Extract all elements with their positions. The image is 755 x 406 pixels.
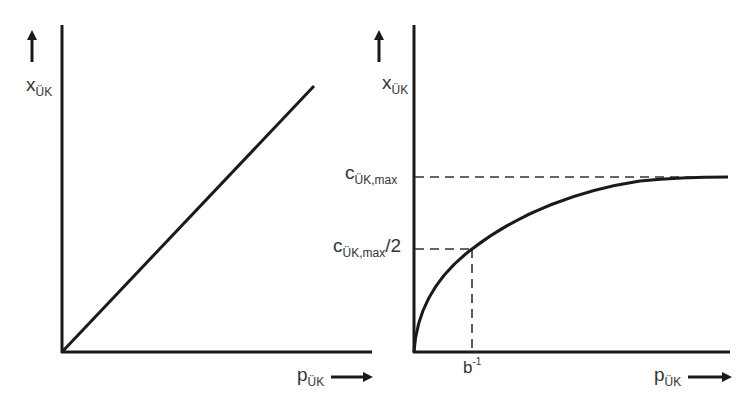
left-x-axis-label: pÜK xyxy=(297,364,324,386)
chalf-label: cÜK,max/2 xyxy=(333,235,401,257)
b-inverse-label: b-1 xyxy=(463,358,481,378)
right-y-axis-label: xÜK xyxy=(382,72,408,94)
right-y-label-main: x xyxy=(382,72,392,93)
cmax-label-main: c xyxy=(345,162,355,183)
left-y-label-sub: ÜK xyxy=(36,85,53,99)
left-linear-line xyxy=(62,86,314,352)
right-x-label-sub: ÜK xyxy=(665,375,682,389)
left-x-label-main: p xyxy=(297,364,308,385)
left-y-axis-label: xÜK xyxy=(26,74,52,96)
left-chart xyxy=(32,25,372,377)
right-x-label-main: p xyxy=(654,364,665,385)
right-chart xyxy=(379,25,730,377)
chalf-label-sub: ÜK,max xyxy=(343,246,386,260)
left-x-label-sub: ÜK xyxy=(308,375,325,389)
right-y-label-sub: ÜK xyxy=(392,83,409,97)
langmuir-curve xyxy=(414,177,728,352)
chalf-label-suffix: /2 xyxy=(385,235,401,256)
right-x-axis-label: pÜK xyxy=(654,364,681,386)
left-y-label-main: x xyxy=(26,74,36,95)
b-label-sup: -1 xyxy=(472,356,481,367)
cmax-label-sub: ÜK,max xyxy=(355,173,398,187)
chalf-label-main: c xyxy=(333,235,343,256)
chart-canvas xyxy=(0,0,755,406)
cmax-label: cÜK,max xyxy=(345,162,397,184)
